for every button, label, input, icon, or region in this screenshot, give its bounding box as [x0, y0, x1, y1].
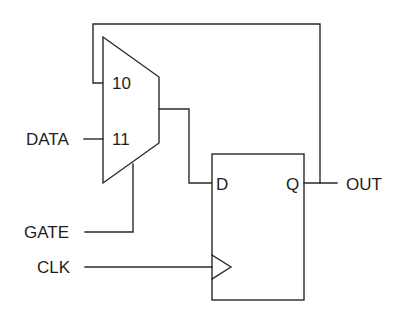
out-label: OUT — [346, 175, 382, 194]
mux-input-10-label: 10 — [112, 74, 131, 93]
gate-label: GATE — [24, 223, 69, 242]
mux-shape — [103, 37, 159, 183]
clk-label: CLK — [37, 258, 71, 277]
ff-q-label: Q — [286, 175, 299, 194]
mux-to-d-wire — [159, 109, 212, 183]
circuit-diagram: 10 11 DATA GATE D Q CLK OUT — [0, 0, 412, 318]
ff-d-label: D — [216, 175, 228, 194]
mux-input-11-label: 11 — [112, 130, 130, 149]
data-label: DATA — [26, 130, 69, 149]
